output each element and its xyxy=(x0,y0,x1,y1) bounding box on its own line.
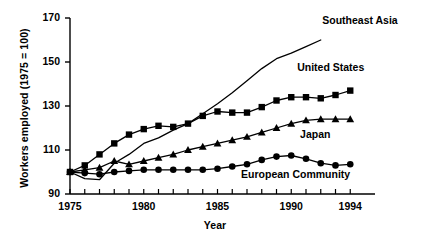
data-point-circle xyxy=(347,161,354,168)
data-point-circle xyxy=(96,171,103,178)
x-axis-tick-label: 1985 xyxy=(198,200,238,212)
y-axis-tick-label: 110 xyxy=(28,143,60,155)
x-axis-tick-label: 1994 xyxy=(330,200,370,212)
data-point-circle xyxy=(244,161,251,168)
series-label-united-states: United States xyxy=(297,61,364,73)
data-point-square xyxy=(259,104,265,110)
data-point-circle xyxy=(317,160,324,167)
y-axis-tick-label: 90 xyxy=(28,187,60,199)
data-point-circle xyxy=(199,167,206,174)
series-label-southeast-asia: Southeast Asia xyxy=(322,14,397,26)
data-point-square xyxy=(155,123,161,129)
data-point-square xyxy=(332,92,338,98)
x-axis-tick-label: 1980 xyxy=(124,200,164,212)
data-point-square xyxy=(111,140,117,146)
y-axis-tick-label: 170 xyxy=(28,11,60,23)
data-point-circle xyxy=(81,170,88,177)
data-point-circle xyxy=(170,167,177,174)
data-point-circle xyxy=(214,165,221,172)
y-axis-tick-label: 130 xyxy=(28,99,60,111)
data-point-circle xyxy=(303,156,310,163)
series-label-japan: Japan xyxy=(300,128,330,140)
data-point-square xyxy=(288,94,294,100)
data-point-square xyxy=(347,87,353,93)
data-point-square xyxy=(229,109,235,115)
data-point-square xyxy=(273,97,279,103)
y-axis-tick-label: 150 xyxy=(28,55,60,67)
data-point-circle xyxy=(229,163,236,170)
data-point-triangle xyxy=(110,157,118,164)
x-axis-tick-label: 1990 xyxy=(271,200,311,212)
data-point-square xyxy=(318,95,324,101)
data-point-square xyxy=(244,109,250,115)
chart-container: Workers employed (1975 = 100) Year 90110… xyxy=(0,0,433,243)
series-line xyxy=(70,40,321,180)
data-point-triangle xyxy=(96,164,104,171)
data-point-circle xyxy=(288,152,295,159)
data-point-square xyxy=(96,151,102,157)
data-point-square xyxy=(170,124,176,130)
data-point-circle xyxy=(126,168,133,175)
data-point-circle xyxy=(155,167,162,174)
series-label-european-community: European Community xyxy=(241,168,350,180)
data-point-circle xyxy=(140,167,147,174)
x-axis-title: Year xyxy=(180,219,250,231)
data-point-circle xyxy=(273,153,280,160)
data-point-square xyxy=(126,131,132,137)
data-point-square xyxy=(185,120,191,126)
data-point-circle xyxy=(111,169,118,176)
data-point-square xyxy=(141,126,147,132)
data-point-square xyxy=(200,113,206,119)
data-point-circle xyxy=(258,157,265,164)
data-point-square xyxy=(214,108,220,114)
data-point-square xyxy=(303,94,309,100)
x-axis-tick-label: 1975 xyxy=(50,200,90,212)
data-point-circle xyxy=(67,169,74,176)
data-point-circle xyxy=(185,167,192,174)
